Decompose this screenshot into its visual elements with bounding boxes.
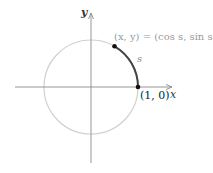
arc-s: [115, 46, 139, 87]
x-axis-label: x: [170, 88, 176, 101]
start-point-label: (1, 0): [140, 89, 170, 102]
point-cos-sin: [112, 44, 117, 49]
y-axis-label: y: [81, 6, 87, 19]
unit-circle-diagram: y x (x, y) = (cos s, sin s) s (1, 0): [0, 0, 213, 173]
diagram-canvas: [0, 0, 213, 173]
point-equation-label: (x, y) = (cos s, sin s): [114, 31, 213, 42]
arc-length-label: s: [137, 53, 142, 64]
